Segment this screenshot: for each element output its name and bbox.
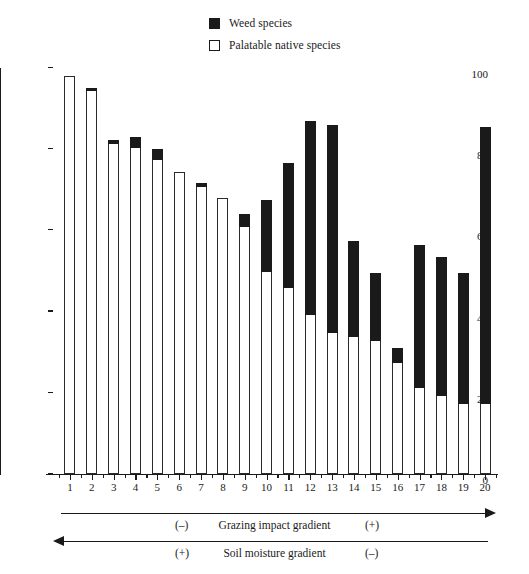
x-axis-minor-tick bbox=[430, 474, 431, 478]
x-axis-tick bbox=[310, 474, 311, 480]
bar-segment-native bbox=[414, 387, 425, 474]
bar-segment-native bbox=[348, 336, 359, 474]
bar-12 bbox=[305, 121, 316, 474]
y-axis-line bbox=[0, 68, 1, 475]
x-axis-tick bbox=[114, 474, 115, 480]
x-axis-minor-tick bbox=[496, 474, 497, 478]
bar-segment-weed bbox=[305, 121, 316, 315]
bar-11 bbox=[283, 163, 294, 474]
bar-segment-weed bbox=[196, 183, 207, 187]
bar-2 bbox=[86, 88, 97, 475]
y-axis-tick bbox=[48, 392, 53, 393]
bar-8 bbox=[217, 198, 228, 474]
x-axis-minor-tick bbox=[168, 474, 169, 478]
bar-segment-native bbox=[86, 90, 97, 474]
x-axis-tick bbox=[332, 474, 333, 480]
x-axis-tick bbox=[179, 474, 180, 480]
bar-segment-native bbox=[436, 395, 447, 474]
bar-16 bbox=[392, 348, 403, 474]
legend-item-native: Palatable native species bbox=[209, 34, 469, 56]
moisture-right-sign: (–) bbox=[365, 547, 378, 559]
bar-segment-native bbox=[458, 403, 469, 474]
bar-segment-weed bbox=[436, 257, 447, 396]
bar-segment-native bbox=[327, 332, 338, 474]
x-axis-tick-label: 15 bbox=[370, 481, 381, 493]
grazing-gradient-labels: (–) Grazing impact gradient (+) bbox=[53, 519, 496, 536]
x-axis-minor-tick bbox=[125, 474, 126, 478]
x-axis-tick-label: 12 bbox=[305, 481, 316, 493]
bar-segment-native bbox=[174, 172, 185, 474]
arrow-right-icon bbox=[485, 508, 496, 518]
x-axis-tick bbox=[485, 474, 486, 480]
x-axis-minor-tick bbox=[146, 474, 147, 478]
x-axis-minor-tick bbox=[452, 474, 453, 478]
x-axis-tick-label: 20 bbox=[480, 481, 491, 493]
bar-19 bbox=[458, 273, 469, 474]
grazing-arrow-shaft bbox=[61, 513, 485, 514]
moisture-gradient-labels: (+) Soil moisture gradient (–) bbox=[53, 547, 496, 564]
x-axis-minor-tick bbox=[190, 474, 191, 478]
bar-segment-weed bbox=[348, 241, 359, 338]
x-axis-minor-tick bbox=[299, 474, 300, 478]
bar-segment-native bbox=[196, 186, 207, 474]
moisture-gradient-arrow bbox=[53, 536, 496, 547]
bar-segment-weed bbox=[108, 140, 119, 144]
legend-label-native: Palatable native species bbox=[229, 39, 341, 51]
bar-segment-weed bbox=[130, 137, 141, 148]
bar-segment-weed bbox=[152, 149, 163, 160]
bar-segment-native bbox=[283, 287, 294, 474]
bar-4 bbox=[130, 137, 141, 474]
bar-7 bbox=[196, 183, 207, 474]
grazing-left-sign: (–) bbox=[175, 519, 188, 531]
bar-segment-weed bbox=[261, 200, 272, 272]
bar-segment-weed bbox=[327, 125, 338, 333]
bar-5 bbox=[152, 149, 163, 474]
x-axis-minor-tick bbox=[365, 474, 366, 478]
bar-segment-weed bbox=[414, 245, 425, 388]
x-axis-tick-label: 18 bbox=[436, 481, 447, 493]
y-axis-tick bbox=[48, 310, 53, 311]
x-axis-tick-label: 7 bbox=[198, 481, 204, 493]
native-swatch-icon bbox=[209, 40, 220, 51]
bar-segment-native bbox=[392, 362, 403, 474]
x-axis-tick-label: 4 bbox=[133, 481, 139, 493]
bar-9 bbox=[239, 214, 250, 474]
bar-17 bbox=[414, 245, 425, 474]
x-axis-tick bbox=[398, 474, 399, 480]
x-axis-tick bbox=[135, 474, 136, 480]
stacked-bar-chart: Weed species Palatable native species Co… bbox=[0, 0, 529, 574]
x-axis-minor-tick bbox=[343, 474, 344, 478]
grazing-right-sign: (+) bbox=[365, 519, 379, 531]
bar-segment-weed bbox=[239, 214, 250, 227]
arrow-left-icon bbox=[53, 536, 64, 546]
x-axis-minor-tick bbox=[409, 474, 410, 478]
x-axis-tick bbox=[288, 474, 289, 480]
bar-segment-native bbox=[152, 159, 163, 474]
x-axis-minor-tick bbox=[474, 474, 475, 478]
x-axis-tick-label: 13 bbox=[327, 481, 338, 493]
x-axis-minor-tick bbox=[59, 474, 60, 478]
x-axis-tick-label: 8 bbox=[220, 481, 226, 493]
bar-segment-native bbox=[64, 76, 75, 474]
bar-1 bbox=[64, 76, 75, 474]
x-axis-tick bbox=[420, 474, 421, 480]
x-axis-tick bbox=[70, 474, 71, 480]
bar-segment-native bbox=[480, 403, 491, 474]
bar-20 bbox=[480, 127, 491, 474]
bar-segment-native bbox=[239, 226, 250, 474]
x-axis-tick bbox=[223, 474, 224, 480]
x-axis-tick-label: 14 bbox=[348, 481, 359, 493]
x-axis-tick bbox=[267, 474, 268, 480]
x-axis-minor-tick bbox=[321, 474, 322, 478]
bar-segment-native bbox=[108, 143, 119, 474]
x-axis-minor-tick bbox=[278, 474, 279, 478]
x-axis-minor-tick bbox=[387, 474, 388, 478]
x-axis-tick-label: 9 bbox=[242, 481, 248, 493]
x-axis-tick bbox=[245, 474, 246, 480]
x-axis-minor-tick bbox=[256, 474, 257, 478]
bar-10 bbox=[261, 200, 272, 474]
grazing-gradient-arrow bbox=[53, 508, 496, 519]
y-axis-tick bbox=[48, 148, 53, 149]
x-axis-tick-label: 2 bbox=[89, 481, 95, 493]
bar-segment-weed bbox=[392, 348, 403, 363]
